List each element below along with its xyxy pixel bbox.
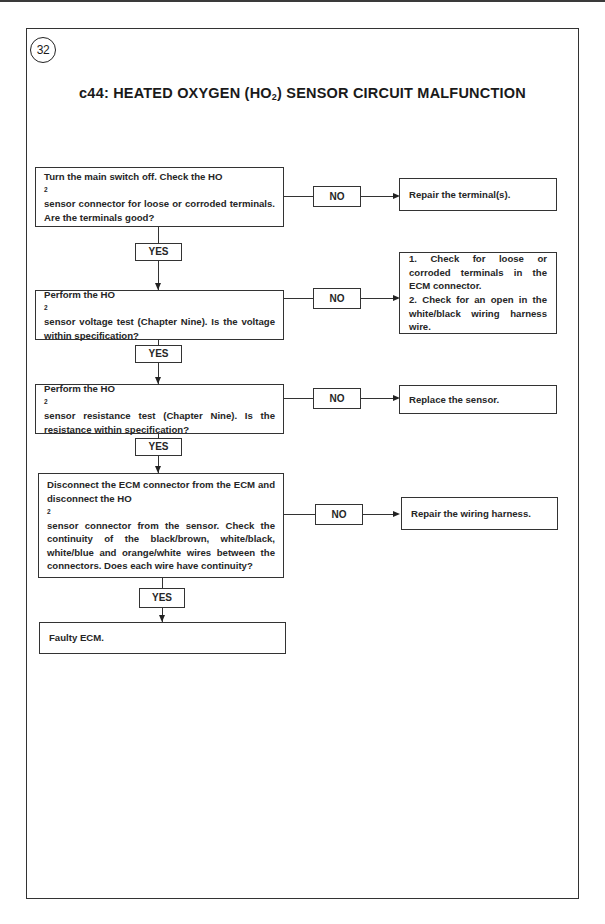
question-text-4: Disconnect the ECM connector from the EC… (47, 478, 275, 573)
arrow-right-icon (393, 511, 400, 517)
question-text-1: Turn the main switch off. Check the HO2 … (44, 170, 275, 224)
question-text-3: Perform the HO2 sensor resistance test (… (44, 382, 275, 436)
connector-arrow-1 (361, 196, 394, 197)
connector-arrow-2 (361, 298, 394, 299)
no-label-3: NO (313, 388, 361, 409)
yes-label-4: YES (139, 588, 185, 608)
diagram-title: c44: HEATED OXYGEN (HO2) SENSOR CIRCUIT … (0, 85, 605, 102)
question-box-3: Perform the HO2 sensor resistance test (… (35, 384, 284, 434)
result-box-3: Replace the sensor. (399, 385, 557, 414)
top-rule (0, 0, 605, 2)
title-text-prefix: c44: HEATED OXYGEN (HO (79, 85, 272, 101)
question-text-2: Perform the HO2 sensor voltage test (Cha… (44, 288, 275, 342)
figure-frame (26, 28, 579, 899)
result-text-3: Replace the sensor. (409, 393, 547, 407)
yes-label-2: YES (135, 345, 182, 363)
no-label-2: NO (313, 288, 361, 309)
question-box-2: Perform the HO2 sensor voltage test (Cha… (35, 290, 284, 340)
arrow-down-icon (155, 466, 161, 473)
final-result-text: Faulty ECM. (49, 631, 276, 645)
connector-arrow-4 (363, 514, 394, 515)
connector-no-2 (284, 298, 313, 299)
question-box-1: Turn the main switch off. Check the HO2 … (35, 167, 284, 227)
question-box-4: Disconnect the ECM connector from the EC… (38, 473, 284, 578)
yes-label-1: YES (135, 243, 182, 261)
no-label-4: NO (315, 504, 363, 525)
final-result-box: Faulty ECM. (39, 622, 286, 654)
arrow-down-icon (159, 615, 165, 622)
result-text-1: Repair the terminal(s). (409, 188, 547, 202)
result-text-2: 1. Check for loose or corroded terminals… (409, 252, 547, 334)
figure-number-badge: 32 (30, 37, 56, 63)
result-box-1: Repair the terminal(s). (399, 178, 557, 211)
no-label-1: NO (313, 186, 361, 207)
title-text-suffix: ) SENSOR CIRCUIT MALFUNCTION (277, 85, 526, 101)
result-box-4: Repair the wiring harness. (401, 497, 558, 530)
result-text-4: Repair the wiring harness. (411, 507, 548, 521)
result-box-2: 1. Check for loose or corroded terminals… (399, 252, 557, 334)
yes-label-3: YES (135, 438, 182, 456)
connector-arrow-3 (361, 398, 394, 399)
connector-no-3 (284, 398, 313, 399)
connector-no-1 (284, 196, 313, 197)
connector-no-4 (284, 514, 315, 515)
